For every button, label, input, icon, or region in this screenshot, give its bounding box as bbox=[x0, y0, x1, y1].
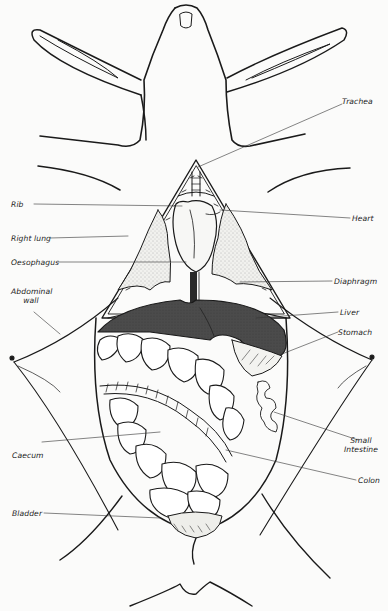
label-small-intestine-line2: Intestine bbox=[340, 445, 382, 454]
label-small-intestine: Small Intestine bbox=[340, 436, 382, 454]
trachea bbox=[178, 172, 214, 196]
label-trachea: Trachea bbox=[342, 97, 373, 106]
label-small-intestine-line1: Small bbox=[340, 436, 382, 445]
small-intestine-coils bbox=[257, 381, 278, 432]
label-rib: Rib bbox=[11, 200, 24, 209]
label-caecum: Caecum bbox=[12, 451, 44, 460]
right-forelimb bbox=[227, 28, 347, 92]
label-right-lung: Right lung bbox=[11, 234, 51, 243]
label-stomach: Stomach bbox=[338, 328, 372, 337]
left-forelimb bbox=[32, 30, 146, 140]
heart bbox=[173, 201, 217, 272]
right-lung bbox=[118, 210, 171, 290]
intestine-loops bbox=[97, 334, 244, 520]
label-bladder: Bladder bbox=[12, 509, 42, 518]
bladder bbox=[168, 512, 222, 538]
label-abdominal-wall-line2: wall bbox=[11, 296, 51, 305]
rabbit-dissection-diagram bbox=[0, 0, 388, 611]
label-diaphragm: Diaphragm bbox=[334, 277, 377, 286]
head-outline bbox=[40, 5, 305, 146]
label-oesophagus: Oesophagus bbox=[11, 258, 59, 267]
label-abdominal-wall-line1: Abdominal bbox=[11, 287, 51, 296]
label-colon: Colon bbox=[358, 476, 380, 485]
left-lung bbox=[212, 204, 272, 290]
label-heart: Heart bbox=[352, 214, 374, 223]
label-abdominal-wall: Abdominal wall bbox=[11, 287, 51, 305]
label-liver: Liver bbox=[340, 308, 359, 317]
